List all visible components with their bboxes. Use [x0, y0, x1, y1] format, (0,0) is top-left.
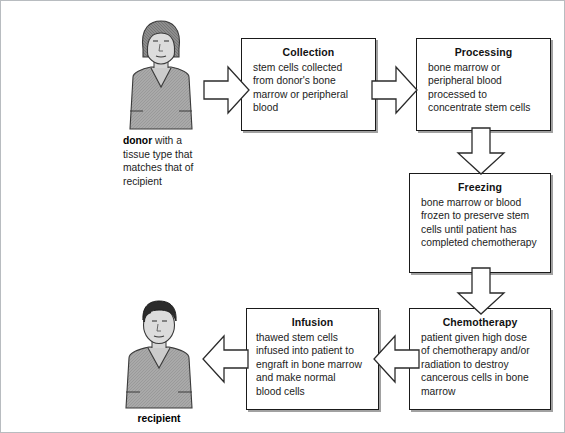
- step-body-line: patient given high dose: [421, 331, 541, 344]
- donor-caption-line: tissue type that: [123, 148, 233, 162]
- step-body-processing: bone marrow or peripheral blood processe…: [417, 61, 550, 115]
- step-body-line: marrow: [421, 385, 541, 398]
- step-body-line: blood cells: [256, 385, 369, 398]
- step-box-freezing[interactable]: Freezing bone marrow or blood frozen to …: [409, 173, 551, 273]
- step-body-line: bone marrow or blood: [421, 196, 541, 209]
- step-body-line: concentrate stem cells: [428, 101, 541, 114]
- step-body-line: infused into patient to: [256, 344, 369, 357]
- step-box-collection[interactable]: Collection stem cells collected from don…: [241, 38, 376, 131]
- donor-caption-line: matches that of: [123, 161, 233, 175]
- step-box-infusion[interactable]: Infusion thawed stem cells infused into …: [246, 308, 379, 410]
- step-box-chemotherapy[interactable]: Chemotherapy patient given high dose of …: [409, 308, 551, 410]
- step-body-collection: stem cells collected from donor's bone m…: [242, 61, 375, 115]
- step-body-chemotherapy: patient given high dose of chemotherapy …: [410, 331, 550, 398]
- arrow-chemotherapy-to-infusion: [372, 334, 420, 384]
- arrow-donor-to-collection: [203, 65, 251, 115]
- step-body-line: cells until patient has: [421, 223, 541, 236]
- step-title-infusion: Infusion: [247, 309, 378, 331]
- donor-caption: donor with a tissue type that matches th…: [123, 134, 233, 188]
- step-body-line: blood: [253, 101, 366, 114]
- arrow-processing-to-freezing: [456, 127, 506, 177]
- step-body-line: from donor's bone: [253, 74, 366, 87]
- recipient-figure: [111, 298, 207, 410]
- step-title-processing: Processing: [417, 39, 550, 61]
- step-body-line: cancerous cells in bone: [421, 371, 541, 384]
- step-body-infusion: thawed stem cells infused into patient t…: [247, 331, 378, 398]
- step-body-line: thawed stem cells: [256, 331, 369, 344]
- arrow-collection-to-processing: [371, 65, 419, 115]
- step-body-line: bone marrow or: [428, 61, 541, 74]
- step-box-processing[interactable]: Processing bone marrow or peripheral blo…: [416, 38, 551, 131]
- step-body-line: peripheral blood: [428, 74, 541, 87]
- donor-figure: [113, 19, 209, 131]
- step-title-freezing: Freezing: [410, 174, 550, 196]
- step-body-line: marrow or peripheral: [253, 88, 366, 101]
- arrow-freezing-to-chemotherapy: [456, 267, 506, 317]
- arrow-infusion-to-recipient: [201, 334, 249, 384]
- step-body-freezing: bone marrow or blood frozen to preserve …: [410, 196, 550, 250]
- donor-label-rest: with a: [152, 135, 182, 146]
- step-body-line: and make normal: [256, 371, 369, 384]
- step-body-line: stem cells collected: [253, 61, 366, 74]
- step-body-line: of chemotherapy and/or: [421, 344, 541, 357]
- step-body-line: completed chemotherapy: [421, 236, 541, 249]
- recipient-label: recipient: [138, 413, 181, 424]
- step-title-collection: Collection: [242, 39, 375, 61]
- donor-caption-line: recipient: [123, 175, 233, 189]
- step-body-line: radiation to destroy: [421, 358, 541, 371]
- donor-label: donor: [123, 135, 152, 146]
- diagram-canvas: donor with a tissue type that matches th…: [0, 0, 565, 433]
- step-body-line: processed to: [428, 88, 541, 101]
- step-body-line: engraft in bone marrow: [256, 358, 369, 371]
- recipient-caption: recipient: [109, 412, 209, 426]
- step-body-line: frozen to preserve stem: [421, 209, 541, 222]
